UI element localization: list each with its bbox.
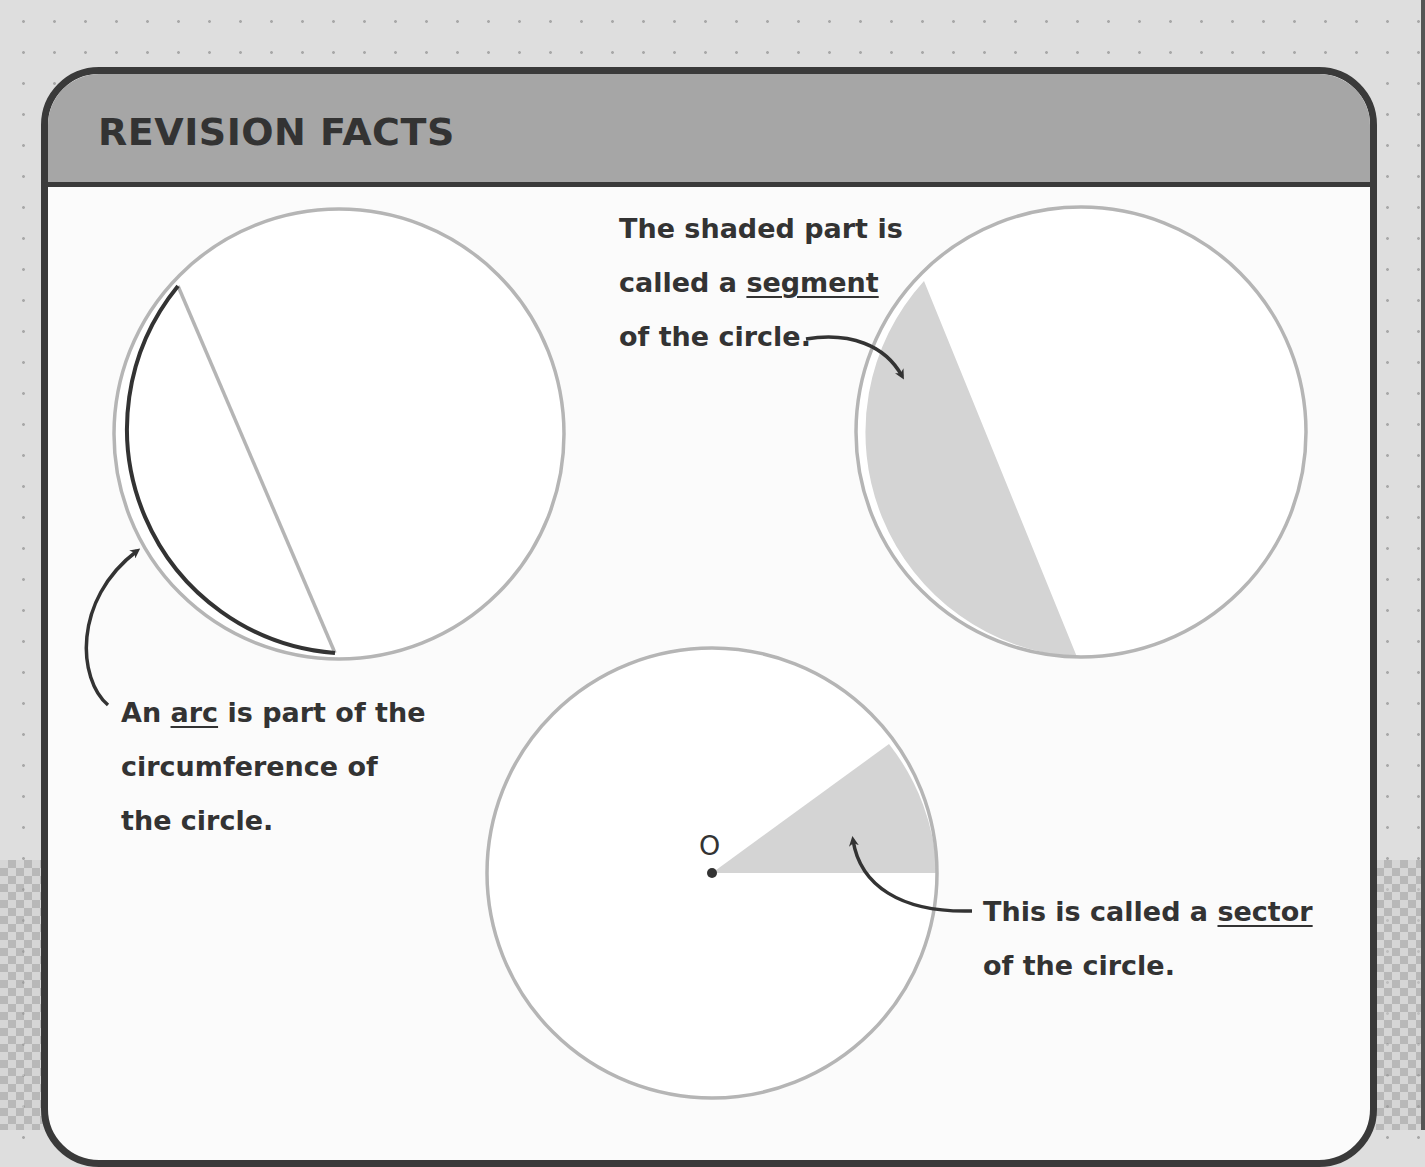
segment-fact-line-2: called a segment (619, 256, 903, 310)
arc-fact-line-3: the circle. (121, 794, 426, 848)
segment-fact-line-1: The shaded part is (619, 202, 903, 256)
sector-fact-line-2: of the circle. (983, 939, 1313, 993)
sector-fact-pre: This is called a (983, 896, 1217, 927)
arc-fact-line-1: An arc is part of the (121, 686, 426, 740)
sector-diagram (487, 648, 972, 1098)
sector-term: sector (1217, 896, 1312, 927)
arc-fact-pre: An (121, 697, 171, 728)
arc-fact-line-2: circumference of (121, 740, 426, 794)
arc-arrow-icon (86, 551, 137, 705)
sector-fact-text: This is called a sector of the circle. (983, 885, 1313, 993)
arc-diagram (86, 209, 564, 705)
segment-term: segment (746, 267, 878, 298)
arc-term: arc (171, 697, 219, 728)
segment-fact-text: The shaded part is called a segment of t… (619, 202, 903, 364)
center-label: O (699, 830, 720, 861)
arc-fact-text: An arc is part of the circumference of t… (121, 686, 426, 848)
arc-fact-post: is part of the (218, 697, 425, 728)
segment-fact-line-3: of the circle. (619, 310, 903, 364)
center-point-icon (707, 868, 717, 878)
arc-circle (114, 209, 564, 659)
sector-fact-line-1: This is called a sector (983, 885, 1313, 939)
segment-fact-pre: called a (619, 267, 746, 298)
